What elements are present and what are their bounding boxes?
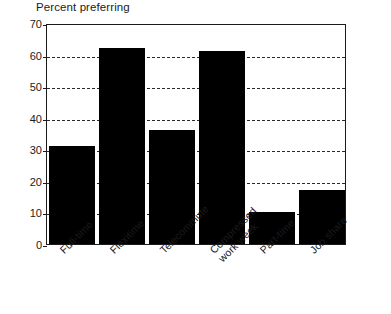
y-tick-30 xyxy=(43,151,47,152)
y-tick-0 xyxy=(43,246,47,247)
y-tick-20 xyxy=(43,183,47,184)
gridline-50 xyxy=(47,88,345,89)
y-axis-label-60: 60 xyxy=(2,50,42,62)
gridline-60 xyxy=(47,57,345,58)
chart-title: Percent preferring xyxy=(36,1,130,13)
y-axis-label-70: 70 xyxy=(2,18,42,30)
y-tick-50 xyxy=(43,88,47,89)
y-tick-10 xyxy=(43,214,47,215)
y-axis-label-30: 30 xyxy=(2,144,42,156)
gridline-40 xyxy=(47,120,345,121)
y-axis-label-20: 20 xyxy=(2,176,42,188)
bar-chart-figure: Percent preferring 010203040506070 Full-… xyxy=(0,0,391,314)
y-axis-label-0: 0 xyxy=(2,239,42,251)
bar-flexitime xyxy=(99,48,145,244)
y-tick-70 xyxy=(43,25,47,26)
y-axis-label-40: 40 xyxy=(2,113,42,125)
y-axis-label-50: 50 xyxy=(2,81,42,93)
y-axis-label-10: 10 xyxy=(2,207,42,219)
y-tick-60 xyxy=(43,57,47,58)
y-tick-40 xyxy=(43,120,47,121)
